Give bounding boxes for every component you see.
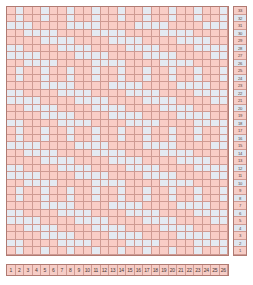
drawdown-cell[interactable] [126,37,135,45]
drawdown-cell[interactable] [24,120,33,128]
drawdown-cell[interactable] [186,112,195,120]
drawdown-cell[interactable] [126,105,135,113]
drawdown-cell[interactable] [220,105,229,113]
drawdown-cell[interactable] [7,165,16,173]
drawdown-cell[interactable] [50,217,59,225]
drawdown-cell[interactable] [211,22,220,30]
drawdown-cell[interactable] [16,37,25,45]
drawdown-cell[interactable] [177,150,186,158]
drawdown-cell[interactable] [7,22,16,30]
drawdown-cell[interactable] [75,105,84,113]
drawdown-cell[interactable] [118,165,127,173]
drawdown-cell[interactable] [75,90,84,98]
drawdown-cell[interactable] [92,217,101,225]
drawdown-cell[interactable] [24,165,33,173]
drawdown-cell[interactable] [24,60,33,68]
drawdown-cell[interactable] [220,157,229,165]
drawdown-cell[interactable] [75,37,84,45]
drawdown-cell[interactable] [101,75,110,83]
drawdown-cell[interactable] [101,187,110,195]
drawdown-cell[interactable] [67,82,76,90]
drawdown-cell[interactable] [220,247,229,255]
row-number-cell[interactable]: 8 [234,195,246,203]
drawdown-cell[interactable] [58,7,67,15]
drawdown-cell[interactable] [50,120,59,128]
drawdown-cell[interactable] [194,30,203,38]
drawdown-cell[interactable] [118,22,127,30]
drawdown-cell[interactable] [126,112,135,120]
drawdown-cell[interactable] [152,172,161,180]
drawdown-cell[interactable] [203,82,212,90]
drawdown-cell[interactable] [169,45,178,53]
drawdown-cell[interactable] [160,150,169,158]
drawdown-cell[interactable] [118,225,127,233]
drawdown-cell[interactable] [143,120,152,128]
drawdown-cell[interactable] [33,240,42,248]
drawdown-cell[interactable] [67,157,76,165]
drawdown-cell[interactable] [75,22,84,30]
drawdown-cell[interactable] [118,240,127,248]
drawdown-cell[interactable] [220,82,229,90]
drawdown-cell[interactable] [169,67,178,75]
drawdown-cell[interactable] [41,187,50,195]
drawdown-cell[interactable] [220,15,229,23]
drawdown-cell[interactable] [194,217,203,225]
drawdown-cell[interactable] [169,187,178,195]
drawdown-cell[interactable] [203,97,212,105]
drawdown-cell[interactable] [24,37,33,45]
drawdown-cell[interactable] [7,37,16,45]
drawdown-cell[interactable] [152,112,161,120]
drawdown-cell[interactable] [177,112,186,120]
drawdown-cell[interactable] [143,247,152,255]
drawdown-cell[interactable] [7,157,16,165]
drawdown-cell[interactable] [160,217,169,225]
row-number-cell[interactable]: 21 [234,97,246,105]
drawdown-cell[interactable] [7,127,16,135]
drawdown-cell[interactable] [152,127,161,135]
drawdown-cell[interactable] [152,22,161,30]
drawdown-cell[interactable] [33,15,42,23]
drawdown-cell[interactable] [101,37,110,45]
drawdown-cell[interactable] [33,105,42,113]
drawdown-cell[interactable] [101,225,110,233]
drawdown-cell[interactable] [33,232,42,240]
drawdown-cell[interactable] [75,165,84,173]
drawdown-cell[interactable] [7,240,16,248]
drawdown-cell[interactable] [152,60,161,68]
drawdown-cell[interactable] [177,202,186,210]
drawdown-cell[interactable] [41,165,50,173]
drawdown-cell[interactable] [92,7,101,15]
drawdown-cell[interactable] [67,45,76,53]
drawdown-cell[interactable] [109,240,118,248]
column-number-cell[interactable]: 26 [220,265,229,275]
drawdown-cell[interactable] [152,97,161,105]
drawdown-cell[interactable] [84,232,93,240]
drawdown-cell[interactable] [152,217,161,225]
drawdown-cell[interactable] [67,142,76,150]
drawdown-cell[interactable] [135,247,144,255]
drawdown-cell[interactable] [16,120,25,128]
drawdown-cell[interactable] [152,52,161,60]
drawdown-cell[interactable] [50,7,59,15]
drawdown-cell[interactable] [126,120,135,128]
drawdown-cell[interactable] [194,90,203,98]
drawdown-cell[interactable] [143,82,152,90]
drawdown-cell[interactable] [203,187,212,195]
drawdown-cell[interactable] [7,97,16,105]
drawdown-cell[interactable] [118,75,127,83]
drawdown-cell[interactable] [220,187,229,195]
drawdown-cell[interactable] [143,37,152,45]
drawdown-cell[interactable] [186,67,195,75]
drawdown-cell[interactable] [211,90,220,98]
drawdown-cell[interactable] [50,37,59,45]
drawdown-cell[interactable] [67,37,76,45]
drawdown-cell[interactable] [220,120,229,128]
drawdown-cell[interactable] [33,225,42,233]
drawdown-cell[interactable] [177,97,186,105]
drawdown-cell[interactable] [211,105,220,113]
drawdown-cell[interactable] [24,217,33,225]
drawdown-cell[interactable] [177,52,186,60]
drawdown-cell[interactable] [186,7,195,15]
drawdown-cell[interactable] [33,22,42,30]
drawdown-cell[interactable] [186,180,195,188]
